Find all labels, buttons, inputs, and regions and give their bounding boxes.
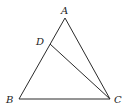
- segment-ca: [65, 18, 110, 99]
- label-a: A: [60, 5, 68, 16]
- label-b: B: [5, 94, 13, 105]
- edges: [19, 18, 110, 99]
- triangle-diagram: A B C D: [0, 0, 130, 110]
- label-c: C: [114, 94, 122, 105]
- segment-ab: [19, 18, 65, 99]
- label-d: D: [35, 36, 44, 47]
- segment-dc: [50, 44, 110, 99]
